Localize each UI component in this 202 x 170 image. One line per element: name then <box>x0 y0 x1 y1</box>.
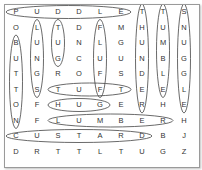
letter-cell[interactable]: G <box>27 66 47 82</box>
letter-cell[interactable]: N <box>132 51 152 67</box>
letter-cell[interactable]: U <box>6 51 26 67</box>
letter-cell[interactable]: E <box>174 97 194 113</box>
letter-cell[interactable]: F <box>90 20 110 36</box>
letter-cell[interactable]: E <box>111 97 131 113</box>
word-search-puzzle: PUDDLETTSOLTDFMHUNBUUNLGUMUUNGCUUNBGTGRO… <box>4 4 200 168</box>
letter-cell[interactable]: B <box>6 35 26 51</box>
letter-cell[interactable]: T <box>6 82 26 98</box>
letter-cell[interactable]: G <box>48 51 68 67</box>
letter-cell[interactable]: D <box>6 144 26 160</box>
letter-cell[interactable]: R <box>48 66 68 82</box>
letter-cell[interactable]: D <box>48 4 68 20</box>
letter-cell[interactable]: U <box>153 20 173 36</box>
letter-cell[interactable]: G <box>174 51 194 67</box>
letter-cell[interactable]: S <box>27 82 47 98</box>
letter-cell[interactable]: R <box>153 113 173 129</box>
letter-cell[interactable]: U <box>132 144 152 160</box>
letter-cell[interactable]: U <box>27 35 47 51</box>
letter-cell[interactable]: D <box>132 128 152 144</box>
letter-cell[interactable]: B <box>153 51 173 67</box>
letter-cell[interactable]: G <box>153 144 173 160</box>
letter-cell[interactable]: S <box>174 4 194 20</box>
letter-cell[interactable]: M <box>111 20 131 36</box>
letter-cell[interactable]: P <box>6 4 26 20</box>
letter-cell[interactable]: L <box>27 20 47 36</box>
letter-cell[interactable]: F <box>27 97 47 113</box>
letter-cell[interactable]: H <box>174 113 194 129</box>
letter-cell[interactable]: C <box>6 128 26 144</box>
letter-cell[interactable]: U <box>27 4 47 20</box>
letter-cell[interactable]: R <box>27 144 47 160</box>
letter-cell[interactable]: C <box>69 51 89 67</box>
letter-cell[interactable]: E <box>111 4 131 20</box>
letter-cell[interactable]: H <box>48 97 68 113</box>
letter-cell[interactable]: T <box>111 82 131 98</box>
letter-cell[interactable]: D <box>69 4 89 20</box>
letter-cell[interactable]: D <box>69 20 89 36</box>
letter-cell[interactable]: N <box>174 20 194 36</box>
letter-cell[interactable]: L <box>90 144 110 160</box>
letter-cell[interactable]: M <box>153 35 173 51</box>
letter-cell[interactable]: T <box>48 144 68 160</box>
letter-cell[interactable]: T <box>111 144 131 160</box>
letter-cell[interactable]: R <box>132 97 152 113</box>
letter-cell[interactable]: T <box>69 144 89 160</box>
letter-cell[interactable]: Z <box>174 144 194 160</box>
letter-cell[interactable]: E <box>132 82 152 98</box>
letter-cell[interactable]: U <box>27 128 47 144</box>
letter-cell[interactable]: F <box>90 82 110 98</box>
letter-cell[interactable]: O <box>69 66 89 82</box>
letter-cell[interactable]: T <box>69 128 89 144</box>
letter-cell[interactable]: S <box>48 128 68 144</box>
letter-cell[interactable]: T <box>132 4 152 20</box>
letter-cell[interactable]: F <box>90 66 110 82</box>
letter-cell[interactable]: U <box>174 35 194 51</box>
letter-cell[interactable]: U <box>69 113 89 129</box>
letter-grid: PUDDLETTSOLTDFMHUNBUUNLGUMUUNGCUUNBGTGRO… <box>5 5 199 167</box>
letter-cell[interactable]: D <box>132 66 152 82</box>
letter-cell[interactable]: U <box>69 82 89 98</box>
letter-cell[interactable]: B <box>153 128 173 144</box>
letter-cell[interactable]: O <box>6 20 26 36</box>
letter-cell[interactable]: E <box>153 82 173 98</box>
letter-cell[interactable]: L <box>174 82 194 98</box>
letter-cell[interactable]: G <box>174 66 194 82</box>
letter-cell[interactable]: N <box>27 51 47 67</box>
letter-cell[interactable]: T <box>153 4 173 20</box>
letter-cell[interactable]: N <box>6 113 26 129</box>
letter-cell[interactable]: E <box>132 113 152 129</box>
letter-cell[interactable]: G <box>90 97 110 113</box>
letter-cell[interactable]: T <box>6 66 26 82</box>
letter-cell[interactable]: U <box>111 51 131 67</box>
letter-cell[interactable]: L <box>48 113 68 129</box>
letter-cell[interactable]: T <box>48 82 68 98</box>
letter-cell[interactable]: J <box>174 128 194 144</box>
letter-cell[interactable]: U <box>90 51 110 67</box>
letter-cell[interactable]: N <box>69 35 89 51</box>
letter-cell[interactable]: F <box>27 113 47 129</box>
letter-cell[interactable]: L <box>90 4 110 20</box>
letter-cell[interactable]: R <box>111 128 131 144</box>
letter-cell[interactable]: B <box>111 113 131 129</box>
letter-cell[interactable]: A <box>90 128 110 144</box>
letter-cell[interactable]: H <box>153 97 173 113</box>
letter-cell[interactable]: L <box>90 35 110 51</box>
letter-cell[interactable]: H <box>132 20 152 36</box>
letter-cell[interactable]: U <box>48 35 68 51</box>
letter-cell[interactable]: O <box>6 97 26 113</box>
letter-cell[interactable]: G <box>111 35 131 51</box>
letter-cell[interactable]: U <box>69 97 89 113</box>
letter-cell[interactable]: S <box>111 66 131 82</box>
letter-cell[interactable]: L <box>153 66 173 82</box>
letter-cell[interactable]: M <box>90 113 110 129</box>
letter-cell[interactable]: U <box>132 35 152 51</box>
letter-cell[interactable]: T <box>48 20 68 36</box>
